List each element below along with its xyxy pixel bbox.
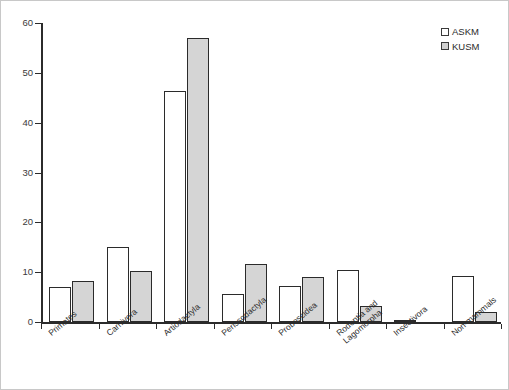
bar-askm-carnivora: [107, 247, 129, 322]
x-axis-tick: [156, 324, 157, 329]
bar-kusm-artiodactyla: [187, 38, 209, 322]
x-axis-tick: [271, 324, 272, 329]
x-axis-tick: [41, 324, 42, 329]
bar-askm-artiodactyla: [164, 91, 186, 322]
legend-item-kusm[interactable]: KUSM: [441, 42, 479, 52]
legend-label-askm: ASKM: [452, 27, 479, 37]
y-axis-tick-label: 0: [5, 317, 33, 327]
bar-chart: 0102030405060 PrimatesCarnivoraArtiodact…: [0, 0, 509, 390]
legend-label-kusm: KUSM: [452, 42, 479, 52]
y-axis-tick-label: 50: [5, 68, 33, 78]
plot-area: [41, 23, 501, 322]
y-axis-tick-label: 10: [5, 267, 33, 277]
y-axis-tick-label: 40: [5, 118, 33, 128]
legend: ASKM KUSM: [441, 27, 479, 56]
y-axis-tick-label: 30: [5, 168, 33, 178]
legend-item-askm[interactable]: ASKM: [441, 27, 479, 37]
x-axis-tick: [444, 324, 445, 329]
x-axis-tick: [329, 324, 330, 329]
x-axis-tick: [214, 324, 215, 329]
y-axis-tick-label: 60: [5, 18, 33, 28]
y-axis-tick-label: 20: [5, 217, 33, 227]
legend-swatch-askm-icon: [441, 28, 449, 36]
legend-swatch-kusm-icon: [441, 42, 449, 50]
y-axis-tick: [35, 322, 41, 323]
x-axis-tick: [501, 324, 502, 329]
x-axis-tick: [386, 324, 387, 329]
x-axis-tick: [99, 324, 100, 329]
